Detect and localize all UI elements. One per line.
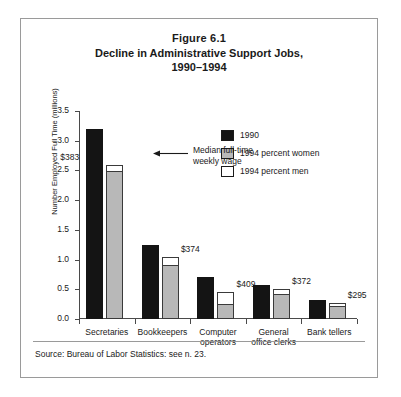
y-axis-label: Number Employed Full Time (millions) — [50, 57, 59, 247]
bar-segment-1994-women — [330, 306, 345, 318]
x-axis-category-label: Bank tellers — [294, 327, 364, 337]
bar-segment-1994-women — [274, 294, 289, 318]
x-tick — [135, 319, 136, 324]
wage-data-label: $383 — [60, 152, 79, 162]
figure-number: Figure 6.1 — [21, 31, 377, 46]
bar-1994-stacked — [162, 257, 179, 319]
figure-title-line-1: Decline in Administrative Support Jobs, — [21, 46, 377, 60]
y-tick-label: 0.5 — [57, 283, 69, 293]
bar-group: $374Bookkeepers — [135, 111, 191, 319]
source-note: Source: Bureau of Labor Statistics: see … — [35, 349, 206, 359]
x-tick — [79, 319, 80, 324]
y-tick-label: 1.0 — [57, 254, 69, 264]
y-tick-label: 2.0 — [57, 194, 69, 204]
plot-area: 0.00.51.01.52.02.53.03.5 $383Secretaries… — [79, 111, 357, 319]
bar-1990 — [309, 300, 326, 319]
x-axis-category-label-line: Bank tellers — [294, 327, 364, 337]
bar-1990 — [142, 245, 159, 319]
y-tick-label: 3.0 — [57, 135, 69, 145]
bar-group: $372Generaloffice clerks — [246, 111, 302, 319]
bar-group: $295Bank tellers — [301, 111, 357, 319]
figure-title-block: Figure 6.1 Decline in Administrative Sup… — [21, 31, 377, 74]
bar-segment-1994-women — [163, 265, 178, 318]
bar-groups: $383Secretaries$374Bookkeepers$409Comput… — [79, 111, 357, 319]
bar-group: $383Secretaries — [79, 111, 135, 319]
bar-1994-stacked — [217, 292, 234, 319]
bar-segment-1994-women — [218, 304, 233, 318]
y-tick-label: 0.0 — [57, 313, 69, 323]
bar-segment-1994-women — [107, 171, 122, 318]
figure-frame: Figure 6.1 Decline in Administrative Sup… — [20, 18, 378, 378]
x-axis-category-label-line: office clerks — [239, 337, 309, 347]
x-tick — [357, 319, 358, 324]
figure-title-line-2: 1990–1994 — [21, 60, 377, 74]
x-tick — [190, 319, 191, 324]
bar-1994-stacked — [329, 303, 346, 319]
source-divider — [33, 341, 365, 342]
bar-1990 — [86, 129, 103, 319]
wage-data-label: $295 — [348, 290, 367, 300]
bar-group: $409Computeroperators — [190, 111, 246, 319]
x-tick — [301, 319, 302, 324]
y-tick-label: 3.5 — [57, 105, 69, 115]
bar-1990 — [253, 285, 270, 319]
bar-1994-stacked — [106, 165, 123, 320]
bar-1990 — [197, 277, 214, 319]
y-tick-label: 2.5 — [57, 164, 69, 174]
x-tick — [246, 319, 247, 324]
bar-1994-stacked — [273, 289, 290, 319]
y-tick-label: 1.5 — [57, 224, 69, 234]
